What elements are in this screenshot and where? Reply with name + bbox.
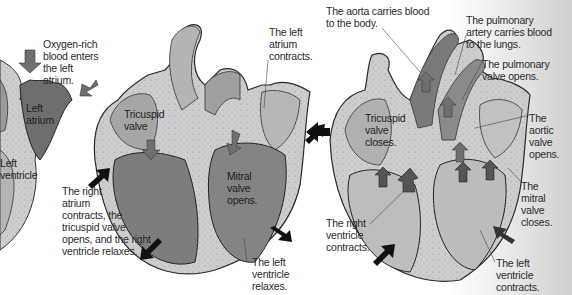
label-tricuspid-closes: Tricuspid valve closes. — [365, 112, 405, 148]
label-pulmonary-artery: The pulmonary artery carries blood to th… — [466, 14, 552, 50]
arrow-panel3-left — [305, 124, 325, 144]
label-left-atrium: Left atrium — [26, 102, 54, 126]
label-left-ventricle-contracts: The left ventricle contracts. — [496, 257, 540, 293]
label-mitral-valve-opens: Mitral valve opens. — [227, 170, 257, 206]
label-left-atrium-contracts: The left atrium contracts. — [269, 26, 313, 62]
label-mitral-closes: The mitral valve closes. — [521, 180, 552, 228]
label-oxygen-rich-blood: Oxygen-rich blood enters the left atrium… — [43, 38, 98, 86]
label-aorta: The aorta carries blood to the body. — [326, 5, 429, 29]
label-right-ventricle-contracts: The right ventricle contracts. — [326, 217, 370, 253]
label-aortic-valve-opens: The aortic valve opens. — [529, 112, 559, 160]
label-pulmonary-valve-opens: The pulmonary valve opens. — [482, 58, 549, 82]
cardiac-cycle-diagram: Oxygen-rich blood enters the left atrium… — [0, 0, 572, 295]
label-tricuspid-valve: Tricuspid valve — [124, 108, 164, 132]
label-left-ventricle-relaxes: The left ventricle relaxes. — [252, 256, 289, 292]
label-left-ventricle: Left ventricle — [0, 157, 37, 181]
label-right-atrium-contracts: The right atrium contracts, the tricuspi… — [62, 185, 151, 257]
